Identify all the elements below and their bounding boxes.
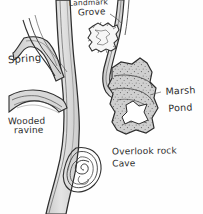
- landmark-grove-feature: [88, 22, 119, 53]
- label-marsh-pond: Marsh Pond: [165, 85, 196, 113]
- label-overlook-rock-cave-line2: Cave: [112, 159, 177, 170]
- label-overlook-rock-cave: Overlook rock Cave: [112, 146, 177, 169]
- label-marsh-pond-line1: Marsh: [165, 84, 195, 97]
- label-spring-line1: Spring: [8, 52, 42, 65]
- wooded-ravine-feature: [9, 90, 67, 113]
- label-landmark-grove: Landmark Grove: [69, 0, 109, 18]
- label-wooded-ravine-line2: ravine: [14, 126, 46, 136]
- label-landmark-grove-line2: Grove: [75, 7, 109, 18]
- marsh-pond-feature: [108, 58, 158, 134]
- label-marsh-pond-line2: Pond: [168, 102, 196, 113]
- label-overlook-rock-cave-line1: Overlook rock: [112, 145, 177, 156]
- label-wooded-ravine: Wooded ravine: [8, 117, 46, 137]
- sketch-map-canvas: Landmark Grove Spring Wooded ravine Mars…: [0, 0, 203, 214]
